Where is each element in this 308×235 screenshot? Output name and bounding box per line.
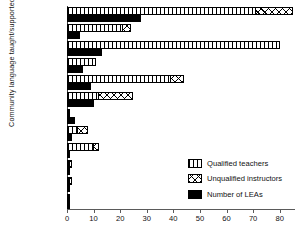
legend-swatch-solid-black	[188, 190, 202, 199]
bar-leas-bengali	[67, 83, 91, 90]
bar-leas-turkish	[67, 151, 70, 158]
bar-qualified-bengali	[67, 75, 171, 83]
legend-item-0: Qualified teachers	[188, 158, 282, 168]
bar-qualified-hindi	[67, 58, 96, 66]
legend-label-2: Number of LEAs	[207, 190, 263, 199]
bar-qualified-panjabi	[67, 41, 280, 49]
bar-qualified-creoles	[67, 194, 70, 202]
legend-item-2: Number of LEAs	[188, 189, 282, 199]
legend-item-1: Unqualified instructors	[188, 174, 282, 184]
x-tick-60	[227, 209, 228, 213]
x-tick-0	[67, 209, 68, 213]
x-tick-50	[200, 209, 201, 213]
bar-leas-urdu	[67, 15, 141, 22]
bar-leas-creoles	[67, 202, 70, 209]
y-axis-title: Community language taught/supported	[7, 0, 16, 138]
bar-leas-urdu-panjabi	[67, 32, 80, 39]
x-tick-20	[120, 209, 121, 213]
bar-leas-panjabi	[67, 49, 102, 56]
bar-qualified-italian	[67, 109, 70, 117]
x-tick-label-30: 30	[132, 214, 162, 223]
legend-swatch-cross-hatch	[188, 174, 202, 183]
bar-leas-chinese	[67, 134, 72, 141]
bar-qualified-urdu-panjabi	[67, 24, 123, 32]
x-tick-label-60: 60	[212, 214, 242, 223]
bar-leas-arabic	[67, 185, 70, 192]
bar-qualified-turkish	[67, 143, 94, 151]
bar-qualified-arabic	[67, 177, 70, 185]
x-tick-label-50: 50	[185, 214, 215, 223]
x-tick-label-20: 20	[105, 214, 135, 223]
legend-swatch-vertical-bars	[188, 159, 202, 168]
x-tick-10	[94, 209, 95, 213]
x-tick-40	[173, 209, 174, 213]
x-tick-label-80: 80	[265, 214, 295, 223]
bar-leas-greek	[67, 168, 70, 175]
x-tick-70	[253, 209, 254, 213]
x-tick-label-10: 10	[79, 214, 109, 223]
x-tick-80	[280, 209, 281, 213]
bar-qualified-gujerati	[67, 92, 99, 100]
bar-chart: Community language taught/supported Urdu…	[0, 0, 308, 235]
x-tick-label-0: 0	[52, 214, 82, 223]
bar-qualified-chinese	[67, 126, 78, 134]
bar-qualified-greek	[67, 160, 70, 168]
x-tick-label-70: 70	[238, 214, 268, 223]
legend-label-0: Qualified teachers	[207, 159, 268, 168]
bar-leas-hindi	[67, 66, 83, 73]
x-tick-label-40: 40	[158, 214, 188, 223]
bar-qualified-urdu	[67, 7, 256, 15]
legend-label-1: Unqualified instructors	[207, 174, 282, 183]
x-tick-30	[147, 209, 148, 213]
chart-legend: Qualified teachersUnqualified instructor…	[188, 158, 282, 205]
bar-leas-italian	[67, 117, 75, 124]
bar-leas-gujerati	[67, 100, 94, 107]
